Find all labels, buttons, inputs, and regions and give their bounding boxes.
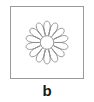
petal-shape xyxy=(54,42,67,49)
radial-spoke xyxy=(44,49,46,57)
figure-panel: b xyxy=(0,0,94,102)
radial-spoke xyxy=(33,36,40,40)
radial-spoke xyxy=(51,31,56,37)
petal-shape xyxy=(54,35,67,42)
motif-frame xyxy=(10,6,84,79)
radial-spoke xyxy=(38,31,43,37)
radial-spoke xyxy=(44,28,46,36)
radial-spoke xyxy=(51,48,56,54)
radial-spoke xyxy=(53,36,60,40)
radial-spoke xyxy=(53,45,60,49)
petal-shape xyxy=(26,35,39,42)
figure-caption-label: b xyxy=(0,82,94,100)
radial-spoke-group xyxy=(32,28,62,57)
radial-spoke xyxy=(49,28,51,36)
radial-spoke xyxy=(38,48,43,54)
radial-spoke xyxy=(49,49,51,57)
center-circle-icon xyxy=(40,36,54,50)
petal-shape xyxy=(26,42,39,49)
radial-spoke xyxy=(33,45,40,49)
rosette-motif-svg xyxy=(11,7,83,78)
